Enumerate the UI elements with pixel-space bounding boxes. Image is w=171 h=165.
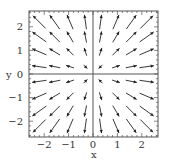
- y-tick-label: −1: [8, 92, 23, 103]
- vector-arrow: [100, 15, 103, 29]
- vector-arrow: [139, 80, 153, 83]
- vector-arrow: [83, 15, 86, 29]
- vector-arrow: [83, 31, 86, 42]
- arrow-head: [133, 65, 136, 68]
- vector-arrow: [140, 106, 154, 116]
- vector-arrow: [50, 106, 60, 116]
- vector-arrow: [99, 92, 102, 100]
- vector-arrow: [112, 65, 120, 68]
- vector-arrow: [126, 93, 137, 99]
- vector-arrow: [140, 32, 154, 42]
- vector-arrow: [112, 93, 119, 100]
- vector-arrow: [112, 48, 119, 55]
- vector-arrow: [33, 16, 46, 29]
- arrow-head: [99, 97, 102, 101]
- vector-arrow: [84, 65, 88, 69]
- vector-arrow: [67, 48, 74, 55]
- arrow-head: [99, 48, 102, 52]
- vector-arrow: [32, 32, 46, 42]
- vector-arrow: [84, 92, 87, 100]
- vector-arrow: [99, 105, 102, 116]
- vector-arrow: [66, 80, 74, 83]
- arrow-head: [133, 80, 136, 83]
- arrow-head: [116, 80, 120, 83]
- vector-arrow: [140, 16, 153, 29]
- arrow-head: [66, 80, 70, 83]
- y-tick-label: −2: [8, 116, 23, 127]
- arrow-head: [84, 97, 87, 101]
- vector-arrow: [99, 65, 103, 69]
- vector-arrow: [67, 32, 73, 43]
- vector-arrow: [83, 119, 86, 133]
- vector-field-plot: −2−1012−2−1012 x y: [0, 0, 171, 165]
- vector-arrow: [126, 80, 137, 83]
- vector-arrow: [126, 106, 136, 116]
- vector-arrow: [99, 79, 103, 83]
- vector-arrow: [140, 120, 153, 133]
- vector-arrow: [113, 119, 119, 133]
- arrow-head: [83, 113, 86, 116]
- vector-arrow: [113, 32, 119, 43]
- vector-arrow: [113, 15, 119, 29]
- x-tick-label: −1: [61, 139, 76, 150]
- y-axis-label: y: [5, 69, 12, 80]
- zero-axes: [29, 11, 158, 137]
- vector-arrow: [140, 49, 154, 55]
- y-tick-label: 0: [17, 69, 23, 80]
- vector-arrow: [84, 48, 87, 56]
- arrow-head: [84, 48, 87, 52]
- y-tick-label: 2: [17, 21, 23, 32]
- arrow-head: [49, 65, 52, 68]
- vector-arrow: [50, 119, 60, 133]
- vector-arrow: [32, 65, 46, 68]
- vector-arrow: [140, 93, 154, 99]
- vector-arrow: [67, 15, 73, 29]
- vector-arrow: [67, 93, 74, 100]
- vector-arrow: [49, 49, 60, 55]
- vector-arrow: [126, 32, 136, 42]
- arrow-head: [66, 65, 70, 68]
- arrow-head: [116, 65, 120, 68]
- vector-arrow: [139, 65, 153, 68]
- arrow-head: [99, 113, 102, 116]
- vector-arrow: [100, 119, 103, 133]
- vector-arrow: [84, 79, 88, 83]
- vector-arrow: [126, 65, 137, 68]
- vector-arrow: [113, 106, 119, 117]
- vector-arrow: [32, 93, 46, 99]
- vector-arrow: [83, 105, 86, 116]
- vector-arrow: [49, 93, 60, 99]
- vector-arrow: [126, 15, 136, 29]
- vector-arrow: [50, 15, 60, 29]
- vector-arrow: [112, 80, 120, 83]
- arrow-head: [49, 80, 52, 83]
- vector-arrow: [126, 119, 136, 133]
- x-axis-label: x: [91, 149, 97, 160]
- y-tick-label: 1: [17, 45, 23, 56]
- vector-arrow: [49, 65, 60, 68]
- vector-arrow: [32, 106, 46, 116]
- vector-arrow: [66, 65, 74, 68]
- vector-arrow: [33, 120, 46, 133]
- vector-arrow: [99, 48, 102, 56]
- vector-arrow: [32, 80, 46, 83]
- x-tick-label: 1: [114, 139, 120, 150]
- vector-arrow: [67, 119, 73, 133]
- vector-arrow: [50, 32, 60, 42]
- arrow-head: [99, 31, 102, 34]
- vector-arrow: [67, 106, 73, 117]
- x-tick-label: −2: [37, 139, 52, 150]
- vector-arrow: [32, 49, 46, 55]
- x-tick-label: 2: [139, 139, 145, 150]
- vector-arrow: [99, 31, 102, 42]
- vector-arrow: [126, 49, 137, 55]
- arrow-head: [83, 31, 86, 34]
- vector-arrow: [49, 80, 60, 83]
